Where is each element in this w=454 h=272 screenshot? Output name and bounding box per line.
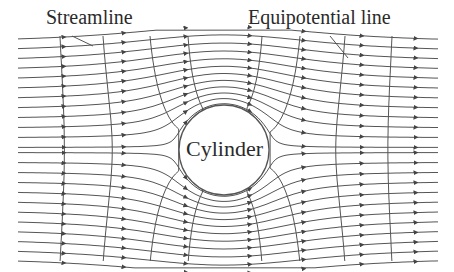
streamline [18,222,438,241]
streamline [18,232,438,249]
streamline [18,59,438,78]
flow-arrow-icon [298,269,304,270]
equipotential-line [150,36,179,261]
equipotential-pointer [330,36,348,58]
streamline-label: Streamline [46,6,133,29]
equipotential-line [388,36,392,261]
equipotential-line-label: Equipotential line [248,6,391,29]
streamline [18,261,438,268]
streamline-pointer [72,36,93,46]
streamline [18,212,438,234]
equipotential-line [270,36,300,261]
cylinder-label: Cylinder [186,136,263,162]
streamline [18,66,438,88]
streamline [18,51,438,68]
equipotential-line [60,36,64,261]
